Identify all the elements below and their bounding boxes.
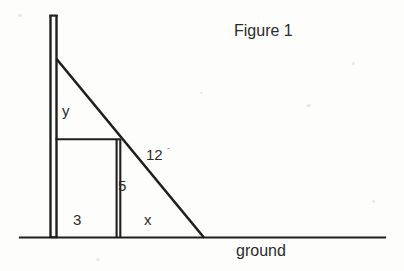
figure-title: Figure 1 <box>234 23 293 39</box>
geometry-drawing <box>0 0 404 271</box>
label-ground: ground <box>236 243 286 259</box>
wall-structure <box>49 15 57 238</box>
label-ladder-length-12: 12 <box>146 147 163 162</box>
ladder-label-tick-icon: ˉ <box>167 147 170 156</box>
figure-diagram-container: Figure 1 y 12 ˉ 5 3 x ground <box>0 0 404 271</box>
label-base-inner-3: 3 <box>73 212 81 227</box>
label-base-outer-x: x <box>144 212 152 227</box>
label-post-height-5: 5 <box>118 178 126 193</box>
label-wall-segment-y: y <box>62 103 70 118</box>
